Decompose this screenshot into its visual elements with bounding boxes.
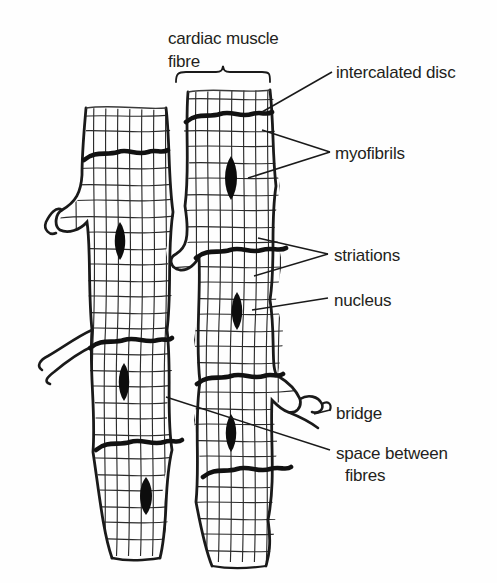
intercalated-disc-2 [186,112,272,122]
label-myofibrils: myofibrils [335,144,405,163]
leader-myofibrils-b [248,152,330,178]
left-fibre-column [39,100,182,566]
bridge-right-upper [300,396,322,412]
label-intercalated-disc: intercalated disc [336,63,456,82]
intercalated-disc-6 [96,440,182,450]
leader-intercalated-disc [262,72,332,112]
label-cardiac-muscle-line1: cardiac muscle [168,29,279,48]
right-fibre-bottom-edge [212,566,266,568]
label-striations: striations [334,246,400,265]
right-fibre-top-edge [188,90,270,92]
cardiac-muscle-diagram: cardiac muscle fibre intercalated disc m… [0,0,497,583]
right-fibre-outline-right [266,90,300,566]
left-fibre-top-edge [86,107,166,109]
label-bridge: bridge [336,404,382,423]
leader-striations-b [254,254,328,276]
striation-grid-right [170,84,300,572]
nucleus-1 [115,222,126,260]
bridge-right-lower [288,412,318,428]
intercalated-disc-1 [84,150,168,160]
label-cardiac-muscle-line2: fibre [168,52,200,71]
intercalated-disc-4 [90,338,172,348]
intercalated-disc-7 [203,467,291,477]
leader-lines [166,72,332,450]
label-space-between-line2: fibres [345,466,385,485]
label-nucleus: nucleus [334,291,391,310]
left-fibre-bottom-edge [112,558,160,560]
striation-grid-left [60,100,182,566]
intercalated-disc-5 [197,374,283,384]
label-space-between-line1: space between [336,444,448,463]
right-fibre-column [170,84,331,572]
nucleus-3 [232,292,243,330]
